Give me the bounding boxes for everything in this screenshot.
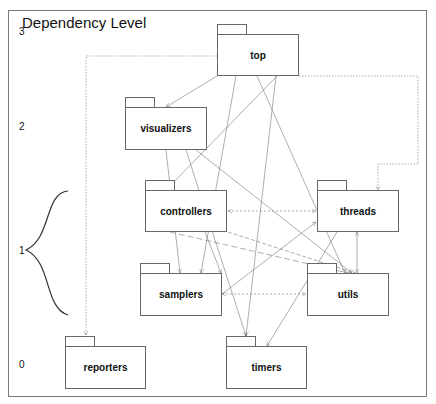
package-label: timers: [226, 346, 307, 389]
edge-controllers-samplers: [205, 232, 221, 273]
package-label: visualizers: [125, 107, 207, 150]
level-1-brace-icon: [26, 191, 68, 315]
package-label: threads: [317, 190, 399, 232]
package-label: samplers: [140, 273, 222, 316]
edge-top-utils: [257, 76, 345, 273]
package-label: top: [217, 34, 299, 76]
edge-top-threads: [299, 76, 418, 190]
edge-top-visualizers: [166, 76, 217, 107]
package-label: utils: [307, 273, 389, 316]
edge-top-samplers-2: [246, 76, 276, 336]
package-label: reporters: [65, 346, 146, 389]
package-label: controllers: [145, 190, 227, 232]
edge-samplers-threads: [222, 222, 316, 294]
